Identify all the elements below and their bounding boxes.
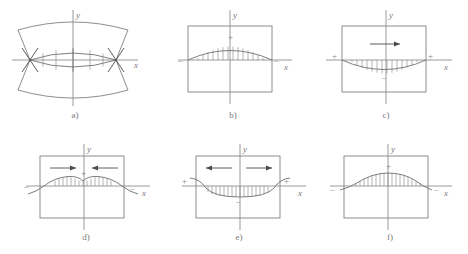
panel-a: y x <box>8 8 158 108</box>
load-arrow-right <box>370 42 400 47</box>
x-axis-label: x <box>283 62 288 72</box>
sign-minus-center: – <box>235 196 241 206</box>
sign-minus-right: – <box>273 55 279 65</box>
x-axis-label: x <box>133 60 138 70</box>
x-axis-label: x <box>297 188 302 198</box>
panel-d: y x <box>22 142 167 234</box>
distribution-curve <box>340 173 432 190</box>
sign-minus-right: – <box>129 183 135 193</box>
x-axis-label: x <box>443 62 448 72</box>
panel-label-a: a) <box>55 110 95 120</box>
sign-minus-left: – <box>23 181 29 191</box>
panel-frame <box>342 26 426 92</box>
panel-label-d: d) <box>66 232 106 242</box>
panel-e: y x <box>174 142 319 234</box>
sign-plus-center: + <box>81 168 86 178</box>
body-right-lower-edge <box>116 60 128 90</box>
body-right-upper-edge <box>116 30 128 60</box>
sign-plus-center: + <box>386 161 391 171</box>
panel-frame <box>196 156 280 218</box>
body-left-lower-edge <box>18 60 30 90</box>
sign-plus-left: + <box>332 51 337 61</box>
sign-minus-right: – <box>433 184 439 194</box>
panel-f: y x <box>322 142 462 234</box>
sign-plus-right: + <box>428 51 433 61</box>
panel-label-b: b) <box>213 110 253 120</box>
y-axis-label: y <box>388 10 393 20</box>
load-arrow-left <box>206 166 232 171</box>
sign-plus-right: + <box>284 176 289 186</box>
sign-minus-center: – <box>381 72 387 82</box>
y-axis-label: y <box>390 144 395 154</box>
y-axis-label: y <box>242 144 247 154</box>
body-left-upper-edge <box>18 30 30 60</box>
load-arrow-left <box>92 166 118 171</box>
x-axis-label: x <box>141 188 146 198</box>
distribution-curve <box>342 60 426 70</box>
panel-label-e: e) <box>219 232 259 242</box>
x-axis-label: x <box>443 188 448 198</box>
y-axis-label: y <box>232 10 237 20</box>
load-arrow-right <box>50 166 76 171</box>
panel-label-c: c) <box>366 110 406 120</box>
hatch-fill <box>356 173 420 186</box>
load-arrow-right <box>246 166 272 171</box>
panel-label-f: f) <box>370 232 410 242</box>
sign-plus-left: + <box>182 176 187 186</box>
panel-c: y x <box>318 8 463 108</box>
panel-b: y x + – – <box>172 8 302 108</box>
sign-minus-left: – <box>329 184 335 194</box>
sign-minus-left: – <box>177 55 183 65</box>
figure-root: y x <box>0 0 468 254</box>
sign-plus-center: + <box>228 32 233 42</box>
panel-frame <box>40 156 124 218</box>
y-axis-label: y <box>75 10 80 20</box>
y-axis-label: y <box>86 144 91 154</box>
